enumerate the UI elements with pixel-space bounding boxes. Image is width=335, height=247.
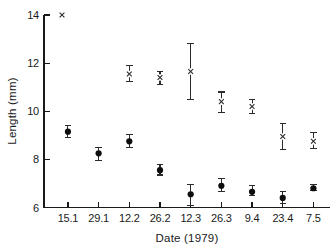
x-tick-label: 26.3 [211, 212, 232, 224]
data-point-dot-series [157, 164, 163, 175]
marker-filled-circle [280, 195, 286, 201]
marker-filled-circle [96, 150, 102, 156]
x-axis-title: Date (1979) [156, 232, 219, 244]
x-tick-label: 12.3 [180, 212, 201, 224]
y-axis-ticks: 68101214 [27, 9, 50, 214]
x-tick-label: 15.1 [58, 212, 79, 224]
data-point-cross-series [310, 133, 317, 149]
data-series-layer [65, 44, 317, 205]
marker-filled-circle [65, 129, 71, 135]
x-tick-label: 29.1 [88, 212, 109, 224]
marker-filled-circle [249, 189, 255, 195]
marker-filled-circle [126, 138, 132, 144]
x-tick-label: 9.4 [245, 212, 260, 224]
y-tick-label: 8 [33, 153, 39, 165]
marker-filled-circle [188, 191, 194, 197]
y-tick-label: 6 [33, 202, 39, 214]
axes-group [44, 15, 330, 208]
legend-cross-mark [60, 13, 65, 18]
data-point-cross-series [126, 66, 133, 82]
x-tick-label: 7.5 [306, 212, 321, 224]
marker-filled-circle [218, 183, 224, 189]
marker-filled-circle [157, 167, 163, 173]
data-point-dot-series [218, 179, 224, 192]
marker-filled-circle [310, 185, 316, 191]
data-point-cross-series [249, 99, 256, 113]
x-tick-label: 23.4 [272, 212, 293, 224]
scatter-plot: 68101214 15.129.112.226.212.326.39.423.4… [0, 0, 335, 247]
data-point-dot-series [249, 186, 255, 196]
data-point-cross-series [157, 72, 164, 85]
y-axis-title: Length (mm) [6, 77, 18, 144]
data-point-dot-series [310, 185, 316, 192]
y-tick-label: 14 [27, 9, 39, 21]
data-point-cross-series [279, 123, 286, 149]
data-point-dot-series [65, 126, 71, 138]
x-tick-label: 26.2 [150, 212, 171, 224]
data-point-dot-series [126, 134, 132, 147]
y-tick-label: 12 [27, 57, 39, 69]
y-tick-label: 10 [27, 105, 39, 117]
annotation-layer [60, 13, 65, 18]
data-point-cross-series [187, 44, 194, 99]
data-point-dot-series [280, 192, 286, 204]
data-point-dot-series [187, 185, 193, 205]
chart-container: 68101214 15.129.112.226.212.326.39.423.4… [0, 0, 335, 247]
x-tick-label: 12.2 [119, 212, 140, 224]
data-point-dot-series [95, 147, 101, 160]
data-point-cross-series [218, 92, 225, 112]
